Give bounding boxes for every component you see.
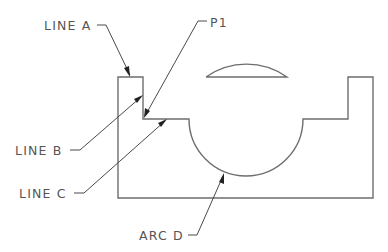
callout-p1: P1 bbox=[144, 15, 228, 118]
label-line-b: LINE B bbox=[15, 143, 63, 158]
circular-segment bbox=[206, 64, 287, 77]
callout-line-c: LINE C bbox=[19, 119, 167, 201]
callout-arc-d: ARC D bbox=[139, 173, 224, 243]
label-arc-d: ARC D bbox=[139, 228, 184, 243]
arrow-icon bbox=[124, 66, 130, 77]
technical-drawing: LINE A P1 LINE B LINE C ARC D bbox=[0, 0, 388, 252]
label-p1: P1 bbox=[210, 15, 228, 30]
callout-line-a: LINE A bbox=[44, 18, 130, 77]
callout-line-b: LINE B bbox=[15, 95, 143, 158]
label-line-a: LINE A bbox=[44, 18, 92, 33]
label-line-c: LINE C bbox=[19, 186, 67, 201]
